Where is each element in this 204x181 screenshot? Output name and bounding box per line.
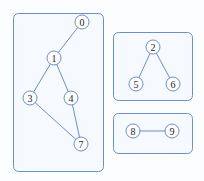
node-9: 9 <box>165 124 179 138</box>
node-label: 5 <box>134 79 139 90</box>
node-label: 8 <box>131 126 136 137</box>
node-5: 5 <box>129 77 143 91</box>
node-4: 4 <box>64 91 78 105</box>
component-c-box <box>114 114 193 154</box>
node-2: 2 <box>146 40 160 54</box>
component-boxes <box>14 14 193 172</box>
node-1: 1 <box>47 51 61 65</box>
node-label: 2 <box>151 42 156 53</box>
node-label: 3 <box>28 93 33 104</box>
node-0: 0 <box>75 15 89 29</box>
graph-diagram: 0134725689 <box>0 0 204 181</box>
node-label: 0 <box>80 17 85 28</box>
node-label: 6 <box>171 79 176 90</box>
node-label: 9 <box>170 126 175 137</box>
node-label: 4 <box>69 93 74 104</box>
node-label: 1 <box>52 53 57 64</box>
node-8: 8 <box>126 124 140 138</box>
node-7: 7 <box>74 137 88 151</box>
node-label: 7 <box>79 139 84 150</box>
node-3: 3 <box>23 91 37 105</box>
node-6: 6 <box>166 77 180 91</box>
